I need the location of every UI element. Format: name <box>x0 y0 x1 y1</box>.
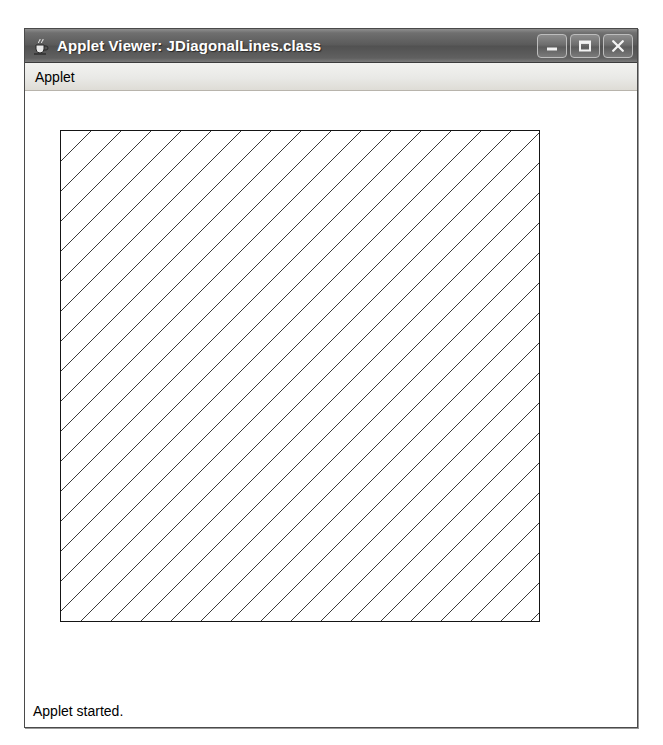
window-title: Applet Viewer: JDiagonalLines.class <box>57 37 537 54</box>
diagonal-hatch-square <box>60 130 540 622</box>
diagonal-lines-graphic <box>61 131 540 622</box>
window-controls <box>537 34 633 58</box>
maximize-icon <box>577 39 593 53</box>
close-icon <box>610 39 626 53</box>
applet-viewer-window: Applet Viewer: JDiagonalLines.class <box>24 28 638 728</box>
menu-item-applet[interactable]: Applet <box>33 67 83 87</box>
applet-canvas <box>25 91 637 693</box>
maximize-button[interactable] <box>570 34 600 58</box>
title-bar[interactable]: Applet Viewer: JDiagonalLines.class <box>25 29 637 63</box>
status-message: Applet started. <box>33 704 123 718</box>
close-button[interactable] <box>603 34 633 58</box>
java-coffee-cup-icon <box>31 35 51 57</box>
minimize-button[interactable] <box>537 34 567 58</box>
status-bar: Applet started. <box>25 693 637 727</box>
menu-bar: Applet <box>25 63 637 91</box>
minimize-icon <box>544 39 560 53</box>
